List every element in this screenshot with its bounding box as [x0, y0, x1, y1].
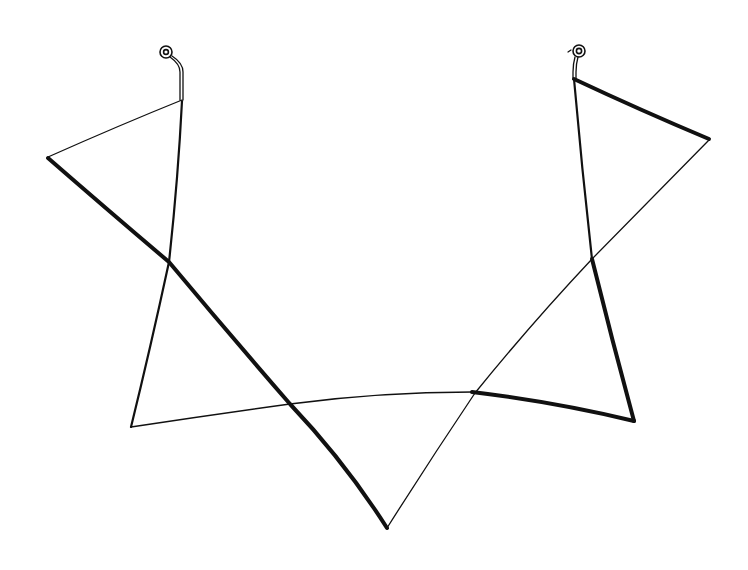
bottom-curve: [131, 392, 472, 427]
right-thin-diagonal: [387, 140, 709, 528]
right-thick-vertical: [592, 259, 634, 421]
left-vertical: [131, 101, 182, 427]
right-clasp-icon: [568, 45, 585, 79]
right-vertical: [574, 79, 592, 259]
left-clasp-icon: [160, 46, 183, 100]
left-top-diagonal: [48, 100, 182, 157]
left-thick-diagonal: [48, 158, 387, 528]
right-thick-bottom: [472, 392, 634, 421]
right-top-thick: [574, 79, 709, 139]
necklace-drawing: [0, 0, 748, 570]
